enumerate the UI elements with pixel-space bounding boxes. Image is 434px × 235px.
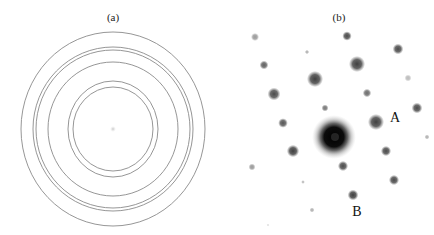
diffraction-spot: [260, 61, 269, 70]
panel-a-label: (a): [107, 12, 119, 23]
figure: (a) (b) A B: [0, 0, 434, 235]
diffraction-spot: [348, 190, 359, 201]
diffraction-spot: [307, 71, 323, 87]
diffraction-spot: [342, 31, 351, 40]
spot-label-a: A: [390, 111, 400, 125]
diffraction-spot: [404, 74, 411, 81]
diffraction-spot: [381, 146, 391, 156]
diffraction-spot: [412, 103, 423, 114]
diffraction-spot: [363, 89, 372, 98]
diffraction-spot: [338, 161, 348, 171]
panel-b-spot-pattern: [248, 31, 429, 226]
diffraction-spot: [251, 33, 259, 41]
diffraction-spot: [321, 104, 328, 111]
diffraction-spot: [310, 208, 315, 213]
diffraction-spot: [287, 145, 299, 157]
figure-canvas: [0, 0, 434, 235]
diffraction-spot: [266, 223, 269, 226]
diffraction-spot: [305, 50, 309, 54]
diffraction-spot: [389, 175, 399, 185]
center-spot: [110, 126, 116, 132]
diffraction-spot: [393, 44, 404, 55]
spot-label-b: B: [352, 205, 361, 219]
diffraction-spot: [301, 180, 305, 184]
diffraction-spot: [268, 88, 281, 101]
diffraction-spot: [278, 118, 288, 128]
diffraction-spot: [248, 163, 255, 170]
panel-b-label: (b): [333, 12, 346, 23]
central-beam-core: [331, 133, 339, 141]
diffraction-spot: [349, 56, 365, 72]
panel-a-ring-pattern: [21, 32, 205, 226]
diffraction-spot: [368, 114, 384, 130]
diffraction-spot: [425, 135, 430, 140]
